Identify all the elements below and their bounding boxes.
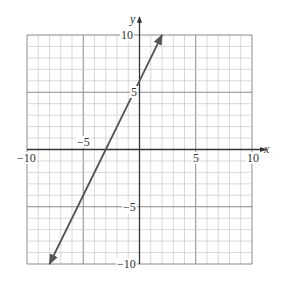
- y-axis-label: y: [130, 13, 135, 25]
- x-tick-label-10: 10: [246, 152, 260, 164]
- x-axis-label: x: [264, 143, 269, 155]
- x-tick-label-5: 5: [192, 152, 200, 164]
- coordinate-plane: [0, 0, 285, 281]
- x-tick-label-neg5: −5: [76, 136, 91, 148]
- y-tick-label-10: 10: [120, 29, 134, 41]
- x-tick-label-neg10: −10: [16, 152, 37, 164]
- y-tick-label-5: 5: [130, 86, 138, 98]
- y-tick-label-neg5: −5: [122, 201, 137, 213]
- y-tick-label-neg10: −10: [116, 258, 137, 270]
